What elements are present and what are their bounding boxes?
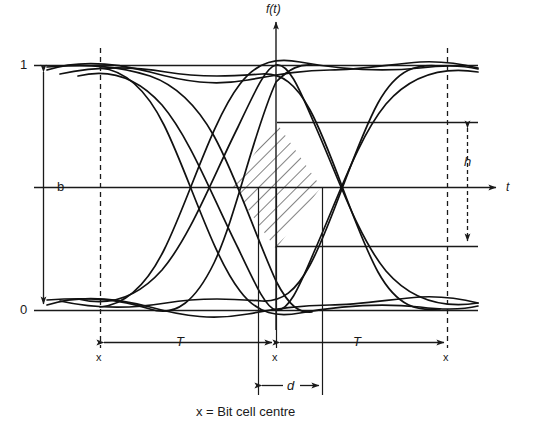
dimension-d-label: d [287,378,294,393]
dimension-period-right-label: T [353,334,361,349]
bit-cell-mark-right: x [443,351,449,363]
dimension-h-label: h [464,154,471,169]
eye-diagram-figure: f(t) t 1 0 b h d T T x x x x = Bit cell … [0,0,541,431]
y-tick-label-one: 1 [20,57,27,72]
y-axis-label: f(t) [266,2,281,16]
bit-cell-mark-centre: x [272,351,278,363]
x-axis-label: t [506,180,509,194]
eye-diagram-canvas [0,0,541,431]
y-tick-label-zero: 0 [20,302,27,317]
dimension-b-label: b [57,179,64,194]
figure-caption: x = Bit cell centre [196,404,295,419]
bit-cell-mark-left: x [96,351,102,363]
dimension-period-left-label: T [176,334,184,349]
